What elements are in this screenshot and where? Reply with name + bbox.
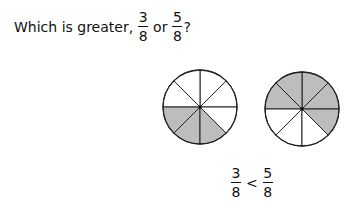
fraction-bar [263,182,273,183]
numerator: 5 [263,165,272,181]
answer-left-fraction: 3 8 [231,165,241,200]
numerator: 3 [232,165,241,181]
pie-2 [265,72,339,146]
fraction-bar [231,182,241,183]
answer-right-fraction: 5 8 [263,165,273,200]
fraction-pie-diagrams [0,0,355,208]
less-than-operator: < [246,175,258,191]
denominator: 8 [232,184,241,200]
comparison-result: 3 8 < 5 8 [228,165,276,200]
pie-1 [163,70,237,144]
denominator: 8 [263,184,272,200]
